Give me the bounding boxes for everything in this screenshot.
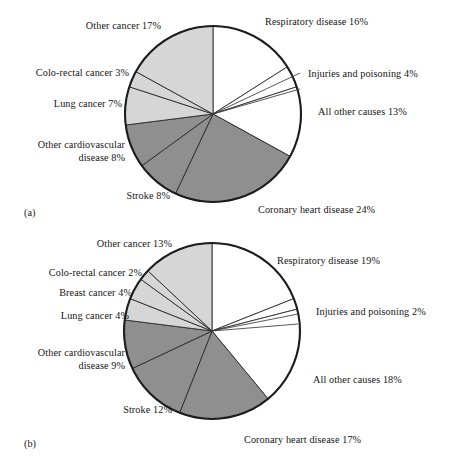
label-coronary-heart-disease-b: Coronary heart disease 17% xyxy=(244,434,361,447)
label-breast-cancer-b: Breast cancer 4% xyxy=(59,287,132,300)
panel-tag-a: (a) xyxy=(24,207,35,218)
label-lung-cancer-a: Lung cancer 7% xyxy=(54,98,122,111)
label-other-cardiovascular-disease-b: Other cardiovascular disease 9% xyxy=(38,347,125,372)
label-respiratory-disease-b: Respiratory disease 19% xyxy=(277,255,380,268)
label-colo-rectal-cancer-a: Colo-rectal cancer 3% xyxy=(36,67,129,80)
label-stroke-a: Stroke 8% xyxy=(126,190,170,203)
label-coronary-heart-disease-a: Coronary heart disease 24% xyxy=(258,204,375,217)
panel-tag-b: (b) xyxy=(24,438,36,449)
label-lung-cancer-b: Lung cancer 4% xyxy=(61,310,129,323)
pie-chart-figure: Respiratory disease 16% Injuries and poi… xyxy=(0,0,452,468)
label-injuries-and-poisoning-b: Injuries and poisoning 2% xyxy=(316,306,426,319)
label-other-cardiovascular-disease-a: Other cardiovascular disease 8% xyxy=(38,139,125,164)
label-all-other-causes-a: All other causes 13% xyxy=(318,106,407,119)
label-injuries-and-poisoning-a: Injuries and poisoning 4% xyxy=(308,68,418,81)
label-other-cancer-a: Other cancer 17% xyxy=(86,20,161,33)
label-other-cancer-b: Other cancer 13% xyxy=(97,238,172,251)
label-all-other-causes-b: All other causes 18% xyxy=(313,374,402,387)
label-respiratory-disease-a: Respiratory disease 16% xyxy=(265,16,368,29)
label-colo-rectal-cancer-b: Colo-rectal cancer 2% xyxy=(49,267,142,280)
label-stroke-b: Stroke 12% xyxy=(123,404,172,417)
pie-panel-b: Respiratory disease 19% Injuries and poi… xyxy=(0,232,452,468)
pie-panel-a: Respiratory disease 16% Injuries and poi… xyxy=(0,0,452,232)
